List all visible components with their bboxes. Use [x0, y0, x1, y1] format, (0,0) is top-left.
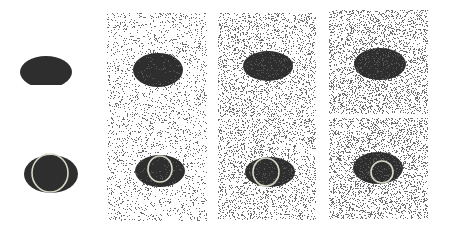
input-row-panel-2 — [107, 13, 207, 119]
ellipse-shape — [20, 56, 72, 85]
result-row-panel-3 — [218, 118, 316, 220]
result-row-panel-1 — [15, 150, 85, 200]
result-row-panel-2 — [107, 118, 207, 221]
input-row-panel-1 — [15, 45, 77, 85]
input-row-panel-3 — [218, 13, 316, 117]
result-row-panel-4 — [329, 118, 428, 219]
input-row-panel-4 — [329, 10, 428, 114]
